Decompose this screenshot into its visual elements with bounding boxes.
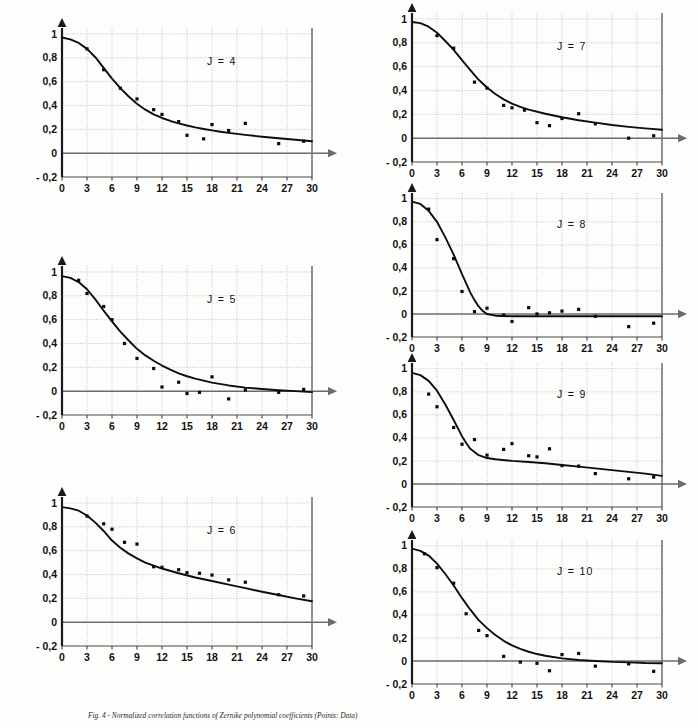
data-point-marker	[577, 308, 580, 311]
y-tick-label: 0	[401, 132, 407, 144]
data-point-marker	[473, 310, 476, 313]
data-point-marker	[435, 566, 438, 569]
x-tick-label: 24	[606, 167, 618, 179]
x-tick-label: 24	[606, 689, 618, 701]
y-tick-label: 1	[51, 28, 57, 40]
data-point-marker	[152, 565, 155, 568]
y-tick-label: - 0,2	[36, 640, 57, 652]
data-point-marker	[227, 129, 230, 132]
data-point-marker	[277, 593, 280, 596]
data-point-marker	[485, 454, 488, 457]
x-tick-label: 12	[506, 512, 518, 524]
x-tick-label: 18	[556, 512, 568, 524]
data-point-marker	[535, 312, 538, 315]
data-point-marker	[523, 109, 526, 112]
x-tick-label: 27	[631, 689, 643, 701]
data-point-marker	[202, 137, 205, 140]
x-tick-label: 24	[606, 512, 618, 524]
data-point-marker	[185, 392, 188, 395]
x-tick-label: 27	[281, 182, 293, 194]
x-tick-label: 30	[306, 651, 318, 663]
y-tick-label: 0,2	[42, 361, 57, 373]
x-tick-label: 21	[231, 182, 243, 194]
x-tick-label: 6	[459, 512, 465, 524]
data-point-marker	[452, 582, 455, 585]
figure-page: - 0,200,20,40,60,81036912151821242730J =…	[0, 0, 697, 727]
y-tick-label: 0,8	[392, 215, 407, 227]
x-tick-label: 30	[656, 167, 668, 179]
data-point-marker	[652, 134, 655, 137]
data-point-marker	[535, 121, 538, 124]
y-tick-label: 0	[51, 147, 57, 159]
data-point-marker	[473, 81, 476, 84]
data-point-marker	[527, 306, 530, 309]
x-tick-label: 9	[484, 689, 490, 701]
plot-area-j10: - 0,200,20,40,60,81036912151821242730J =…	[378, 530, 688, 710]
data-point-marker	[135, 542, 138, 545]
data-point-marker	[452, 47, 455, 50]
y-tick-label: - 0,2	[386, 331, 407, 343]
data-point-marker	[510, 106, 513, 109]
y-tick-label: 0	[401, 308, 407, 320]
x-tick-label: 9	[134, 182, 140, 194]
x-tick-label: 9	[134, 651, 140, 663]
panel-title-label: J = 7	[557, 40, 587, 52]
y-tick-label: 1	[401, 192, 407, 204]
y-tick-label: 0,4	[42, 568, 57, 580]
data-point-marker	[627, 662, 630, 665]
data-point-marker	[485, 86, 488, 89]
data-point-marker	[244, 388, 247, 391]
data-point-marker	[302, 594, 305, 597]
data-point-marker	[244, 581, 247, 584]
x-tick-label: 12	[156, 182, 168, 194]
y-tick-label: - 0,2	[386, 501, 407, 513]
x-tick-label: 21	[581, 512, 593, 524]
y-tick-label: - 0,2	[36, 409, 57, 421]
data-point-marker	[460, 290, 463, 293]
x-tick-label: 15	[181, 651, 193, 663]
x-tick-label: 15	[531, 512, 543, 524]
chart-panel-j7: - 0,200,20,40,60,81036912151821242730J =…	[378, 3, 688, 188]
plot-area-j9: - 0,200,20,40,60,81036912151821242730J =…	[378, 353, 688, 533]
data-point-marker	[85, 514, 88, 517]
x-tick-label: 21	[231, 651, 243, 663]
data-point-marker	[594, 472, 597, 475]
y-tick-label: 0,6	[392, 238, 407, 250]
figure-caption: Fig. 4 - Normalized correlation function…	[88, 711, 688, 720]
x-tick-label: 6	[109, 182, 115, 194]
y-axis-arrow-icon	[408, 183, 417, 192]
data-point-marker	[177, 381, 180, 384]
chart-panel-j4: - 0,200,20,40,60,81036912151821242730J =…	[28, 18, 338, 203]
y-tick-label: 0,8	[392, 385, 407, 397]
x-tick-label: 18	[206, 651, 218, 663]
data-point-marker	[277, 391, 280, 394]
chart-panel-j10: - 0,200,20,40,60,81036912151821242730J =…	[378, 530, 688, 710]
x-tick-label: 0	[409, 512, 415, 524]
data-point-marker	[473, 438, 476, 441]
data-point-marker	[110, 318, 113, 321]
data-point-marker	[119, 87, 122, 90]
x-tick-label: 15	[531, 689, 543, 701]
y-tick-label: 0	[401, 655, 407, 667]
data-point-marker	[123, 342, 126, 345]
x-tick-label: 3	[84, 651, 90, 663]
x-tick-label: 21	[581, 689, 593, 701]
y-tick-label: 0	[51, 616, 57, 628]
data-point-marker	[244, 122, 247, 125]
x-tick-label: 3	[434, 689, 440, 701]
y-tick-label: 0,2	[392, 108, 407, 120]
data-point-marker	[427, 208, 430, 211]
x-axis-arrow-icon	[328, 387, 337, 395]
data-point-marker	[577, 112, 580, 115]
y-tick-label: 1	[401, 13, 407, 25]
x-axis-arrow-icon	[678, 480, 687, 488]
data-point-marker	[535, 662, 538, 665]
data-point-marker	[548, 669, 551, 672]
data-point-marker	[85, 292, 88, 295]
y-tick-label: 0,4	[392, 261, 407, 273]
x-tick-label: 6	[459, 689, 465, 701]
data-point-marker	[427, 393, 430, 396]
x-tick-label: 0	[59, 420, 65, 432]
plot-area-j5: - 0,200,20,40,60,81036912151821242730J =…	[28, 256, 338, 441]
model-curve	[412, 373, 662, 476]
